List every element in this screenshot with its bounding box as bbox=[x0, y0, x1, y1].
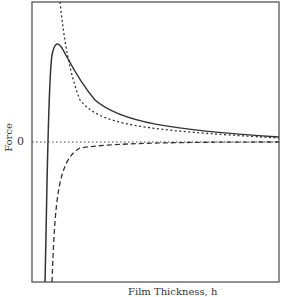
x-axis-label: Film Thickness, h bbox=[128, 286, 217, 297]
repulsive-curve bbox=[60, 2, 279, 138]
y-axis-label: Force bbox=[3, 123, 14, 152]
zero-tick-label: 0 bbox=[17, 135, 24, 148]
net-force-curve bbox=[45, 44, 279, 282]
attractive-curve bbox=[52, 142, 279, 282]
